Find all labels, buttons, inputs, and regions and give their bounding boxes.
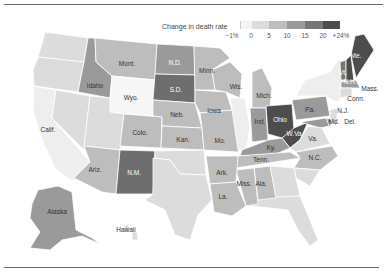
label-idaho: Idaho [87,82,104,89]
label-mass: Mass. [361,85,379,92]
label-conn: Conn. [347,95,365,102]
label-hawaii: Hawaii [116,226,136,233]
label-ohio: Ohio [273,116,287,123]
label-md: Md. [329,118,340,125]
state-new-york [296,60,345,102]
label-iowa: Iowa [207,107,221,114]
label-mich: Mich. [256,92,272,99]
label-colo: Colo. [132,129,147,136]
label-wyo: Wyo. [124,94,139,102]
label-la: La. [218,193,227,200]
label-mont: Mont. [119,60,135,67]
label-vt: Vt. [339,69,347,76]
us-choropleth-map: Calif. Idaho Mont. Wyo. N.D. S.D. Minn. … [0,0,387,276]
label-kan: Kan. [176,136,190,143]
label-tenn: Tenn. [253,156,269,163]
label-miss: Miss. [236,180,251,187]
label-nj: N.J. [337,107,349,114]
label-nh: N.H. [344,78,357,85]
label-minn: Minn. [199,67,215,74]
label-me: Me. [351,52,362,59]
label-nm: N.M. [127,169,141,176]
state-michigan [252,68,272,108]
state-hawaii-big [132,232,138,240]
label-calif: Calif. [41,126,56,133]
label-ariz: Ariz. [89,166,102,173]
label-sd: S.D. [170,86,183,93]
label-del: Del. [344,118,356,125]
label-neb: Neb. [170,111,184,118]
label-nd: N.D. [169,59,182,66]
label-wis: Wis. [230,83,243,90]
state-oregon [33,57,84,92]
label-ala: Ala. [255,180,266,187]
label-alaska: Alaska [47,208,67,215]
state-indiana [250,108,268,142]
label-nc: N.C. [309,154,322,161]
label-wva: W.Va. [287,130,304,137]
label-ind: Ind. [255,118,266,125]
state-south-carolina [294,168,320,186]
label-pa: Pa. [305,106,315,113]
state-florida [250,196,318,246]
label-ark: Ark. [216,169,228,176]
label-va: Va. [308,135,317,142]
bottom-rule [4,267,379,268]
label-mo: Mo. [215,137,226,144]
state-alaska [30,186,100,250]
label-ky: Ky. [267,144,276,152]
